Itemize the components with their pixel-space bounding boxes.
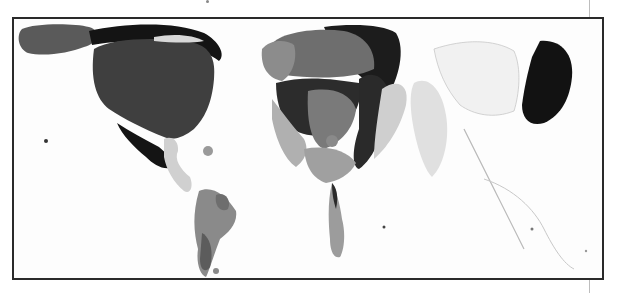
region-africa-south	[304, 148, 356, 183]
region-india	[411, 81, 448, 177]
region-central-america	[164, 138, 192, 192]
region-alaska	[19, 24, 98, 54]
cartogram-map	[14, 19, 602, 278]
region-madagascar-dot	[383, 226, 386, 229]
region-great-lakes-africa	[326, 135, 338, 147]
region-hawaii	[44, 139, 48, 143]
region-falklands	[213, 268, 219, 274]
region-island-dot	[531, 228, 534, 231]
region-japan	[522, 41, 572, 124]
cut-off-text-fragment	[206, 0, 209, 3]
region-caribbean	[203, 146, 213, 156]
region-north-america	[93, 39, 215, 139]
region-southeast-asia	[464, 129, 524, 249]
region-china	[434, 42, 519, 116]
region-oceania	[484, 179, 574, 269]
map-frame	[12, 17, 604, 280]
region-island-dot	[585, 250, 587, 252]
